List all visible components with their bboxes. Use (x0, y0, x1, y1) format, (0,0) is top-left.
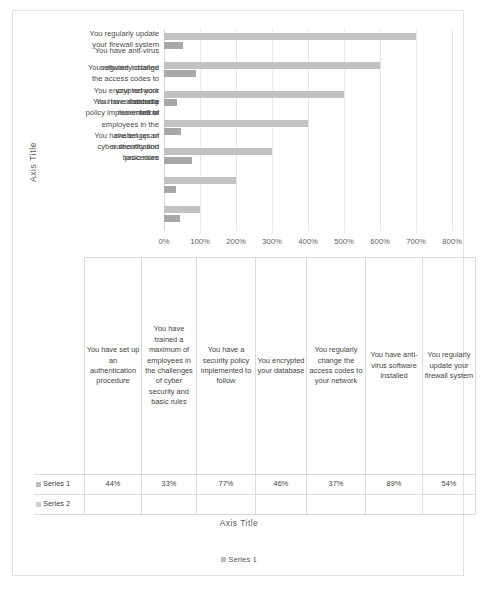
table-cell[interactable]: 44% (85, 475, 142, 495)
chart-object[interactable]: Axis Title You regularly updateyour fire… (12, 10, 464, 576)
table-column-header: You have anti-virus software installed (366, 258, 423, 475)
table-column-header: You regularly change the access codes to… (307, 258, 366, 475)
bar-group[interactable] (164, 87, 452, 116)
table-column-header: You have set up an authentication proced… (85, 258, 142, 475)
bar-series-2[interactable] (164, 70, 196, 77)
legend-entry-label: Series 1 (228, 555, 257, 564)
table-row-header[interactable]: Series 2 (34, 495, 85, 515)
bar-series-1[interactable] (164, 177, 236, 184)
horizontal-axis-title: Axis Title (13, 518, 465, 528)
value-axis-tick: 100% (180, 237, 220, 246)
bar-group[interactable] (164, 29, 452, 58)
value-axis-tick: 700% (396, 237, 436, 246)
bar-series-2[interactable] (164, 157, 192, 164)
table-row-label: Series 1 (43, 479, 70, 488)
chart-data-table[interactable]: You have set up an authentication proced… (34, 257, 476, 515)
bar-series-1[interactable] (164, 33, 416, 40)
series2-swatch-icon (36, 502, 41, 507)
value-axis-tick: 600% (360, 237, 400, 246)
bar-series-2[interactable] (164, 99, 177, 106)
table-row[interactable]: Series 2 (34, 495, 476, 515)
table-cell[interactable]: 46% (256, 475, 307, 495)
legend-entry[interactable]: Series 1 (221, 555, 257, 564)
table-cell[interactable] (366, 495, 423, 515)
table-cell[interactable] (85, 495, 142, 515)
bar-series-1[interactable] (164, 206, 200, 213)
table-cell[interactable] (256, 495, 307, 515)
category-label-line: the access codes to (31, 74, 159, 85)
table-cell[interactable]: 54% (423, 475, 476, 495)
table-cell[interactable]: 89% (366, 475, 423, 495)
table-cell[interactable]: 33% (142, 475, 197, 495)
table-corner-cell (34, 258, 85, 475)
bar-group[interactable] (164, 173, 452, 202)
value-axis-tick: 800% (432, 237, 472, 246)
value-axis-tick: 0% (144, 237, 184, 246)
table-row-label: Series 2 (43, 499, 70, 508)
category-axis-labels: You regularly updateyour firewall system… (31, 29, 159, 231)
chart-plot-area[interactable]: Axis Title You regularly updateyour fire… (13, 15, 465, 255)
category-label-line: You encrypted your (31, 86, 159, 97)
table-cell[interactable]: 77% (197, 475, 256, 495)
bar-group[interactable] (164, 58, 452, 87)
category-label-line: You regularly update (31, 29, 159, 40)
value-axis-tick: 400% (288, 237, 328, 246)
bar-group[interactable] (164, 116, 452, 145)
table-cell[interactable] (423, 495, 476, 515)
table-header-row: You have set up an authentication proced… (34, 258, 476, 475)
bar-series-2[interactable] (164, 186, 176, 193)
category-label-line: You have trained a (31, 97, 159, 108)
bar-group[interactable] (164, 144, 452, 173)
bar-series-1[interactable] (164, 148, 272, 155)
bars-panel (164, 29, 452, 231)
table-cell[interactable] (197, 495, 256, 515)
value-axis-tick: 200% (216, 237, 256, 246)
category-label-line: authentication (31, 142, 159, 153)
category-label-line: software installed (31, 63, 159, 74)
value-axis-tick: 300% (252, 237, 292, 246)
value-axis-tick-labels: 0%100%200%300%400%500%600%700%800% (164, 237, 452, 251)
bar-group[interactable] (164, 202, 452, 231)
gridline (452, 29, 453, 231)
table-column-header: You encrypted your database (256, 258, 307, 475)
bar-series-2[interactable] (164, 42, 183, 49)
table-column-header: You regularly update your firewall syste… (423, 258, 476, 475)
category-label-line: You have anti-virus (31, 46, 159, 57)
bar-series-2[interactable] (164, 128, 181, 135)
value-axis-tick: 500% (324, 237, 364, 246)
category-label-line: You have set up an (31, 131, 159, 142)
category-label-line: employees in the (31, 120, 159, 131)
table-cell[interactable]: 37% (307, 475, 366, 495)
category-label-line: maximum of (31, 108, 159, 119)
bar-series-2[interactable] (164, 215, 180, 222)
bar-series-1[interactable] (164, 120, 308, 127)
bar-series-1[interactable] (164, 62, 380, 69)
table-column-header: You have trained a maximum of employees … (142, 258, 197, 475)
bar-series-1[interactable] (164, 91, 344, 98)
chart-legend[interactable]: Series 1 (13, 555, 465, 564)
series1-swatch-icon (36, 482, 41, 487)
table-row-header[interactable]: Series 1 (34, 475, 85, 495)
table-cell[interactable] (142, 495, 197, 515)
table-cell[interactable] (307, 495, 366, 515)
series1-swatch-icon (221, 557, 226, 562)
category-label-line: procedure (31, 153, 159, 164)
table-row[interactable]: Series 144%33%77%46%37%89%54% (34, 475, 476, 495)
table-column-header: You have a security policy implemented t… (197, 258, 256, 475)
